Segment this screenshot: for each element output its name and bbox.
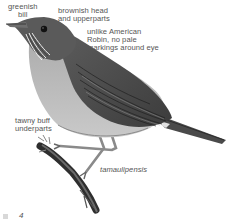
page-marker-square (3, 214, 8, 219)
annotation-head-line-2: and upperparts (58, 15, 110, 23)
annotation-underparts-line-2: underparts (15, 125, 52, 133)
annotation-bill-line-2: bill (8, 11, 38, 19)
annotation-head: brownish head and upperparts (58, 7, 110, 23)
annotation-bill: greenish bill (8, 3, 38, 19)
field-guide-page: greenish bill brownish head and upperpar… (0, 0, 228, 222)
annotation-robin-line-3: markings around eye (87, 44, 159, 52)
page-number: 4 (19, 211, 23, 220)
annotation-robin: unlike American Robin, no pale markings … (87, 28, 159, 53)
annotation-underparts: tawny buff underparts (15, 117, 52, 133)
subspecies-label: tamaulipensis (100, 166, 147, 174)
